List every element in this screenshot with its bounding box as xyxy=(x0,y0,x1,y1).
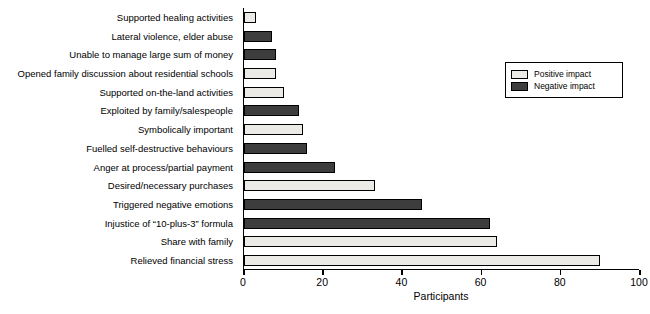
category-label-12: Share with family xyxy=(161,236,233,247)
category-label-1: Lateral violence, elder abuse xyxy=(112,31,233,42)
legend-item-positive: Positive impact xyxy=(511,69,617,79)
bar-fill xyxy=(244,255,600,266)
category-label-5: Exploited by family/salespeople xyxy=(100,105,233,116)
bar-fill xyxy=(244,180,375,191)
x-tick-label: 20 xyxy=(316,276,328,288)
x-tick-mark xyxy=(322,270,324,275)
bar-fill xyxy=(244,12,256,23)
x-tick-label: 80 xyxy=(554,276,566,288)
x-tick-mark xyxy=(243,270,245,275)
legend-swatch-negative-icon xyxy=(511,82,528,91)
bar-chart: Supported healing activitiesLateral viol… xyxy=(0,0,650,314)
y-axis-category-labels: Supported healing activitiesLateral viol… xyxy=(0,8,238,270)
x-axis-ticks: 020406080100 xyxy=(243,270,639,290)
category-label-0: Supported healing activities xyxy=(117,12,233,23)
x-tick-mark xyxy=(560,270,562,275)
bars-container xyxy=(244,8,639,269)
bar-fill xyxy=(244,105,299,116)
category-label-4: Supported on-the-land activities xyxy=(99,87,233,98)
x-tick-mark xyxy=(481,270,483,275)
bar-7 xyxy=(244,143,307,154)
category-label-2: Unable to manage large sum of money xyxy=(69,49,233,60)
bar-5 xyxy=(244,105,299,116)
category-label-6: Symbolically important xyxy=(138,124,233,135)
category-label-7: Fuelled self-destructive behaviours xyxy=(86,143,233,154)
legend: Positive impact Negative impact xyxy=(505,62,623,98)
x-tick-label: 0 xyxy=(240,276,246,288)
bar-12 xyxy=(244,236,497,247)
x-tick-label: 40 xyxy=(396,276,408,288)
category-label-8: Anger at process/partial payment xyxy=(94,162,233,173)
bar-fill xyxy=(244,236,497,247)
bar-fill xyxy=(244,199,422,210)
x-tick-mark xyxy=(401,270,403,275)
plot-area xyxy=(243,8,639,270)
bar-13 xyxy=(244,255,600,266)
bar-fill xyxy=(244,162,335,173)
bar-fill xyxy=(244,31,272,42)
category-label-13: Relieved financial stress xyxy=(131,255,233,266)
bar-0 xyxy=(244,12,256,23)
bar-3 xyxy=(244,68,276,79)
category-label-10: Triggered negative emotions xyxy=(113,199,233,210)
x-tick-label: 100 xyxy=(630,276,648,288)
bar-1 xyxy=(244,31,272,42)
category-label-3: Opened family discussion about residenti… xyxy=(18,68,233,79)
bar-fill xyxy=(244,68,276,79)
bar-fill xyxy=(244,218,490,229)
bar-6 xyxy=(244,124,303,135)
category-label-9: Desired/necessary purchases xyxy=(108,180,233,191)
legend-label-negative: Negative impact xyxy=(534,81,595,91)
legend-swatch-positive-icon xyxy=(511,70,528,79)
bar-4 xyxy=(244,87,284,98)
bar-fill xyxy=(244,87,284,98)
bar-9 xyxy=(244,180,375,191)
legend-item-negative: Negative impact xyxy=(511,81,617,91)
bar-10 xyxy=(244,199,422,210)
bar-fill xyxy=(244,143,307,154)
x-axis-title: Participants xyxy=(243,290,639,302)
legend-label-positive: Positive impact xyxy=(534,69,591,79)
bar-2 xyxy=(244,49,276,60)
bar-fill xyxy=(244,124,303,135)
bar-11 xyxy=(244,218,490,229)
bar-fill xyxy=(244,49,276,60)
x-tick-label: 60 xyxy=(475,276,487,288)
bar-8 xyxy=(244,162,335,173)
x-tick-mark xyxy=(639,270,641,275)
category-label-11: Injustice of “10-plus-3” formula xyxy=(105,218,233,229)
